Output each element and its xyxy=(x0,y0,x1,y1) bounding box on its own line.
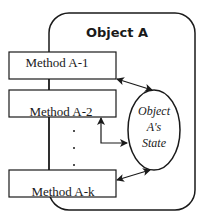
state-label-line2: A's xyxy=(146,120,162,134)
arrow-a2-state xyxy=(101,118,127,143)
state-label-line3: State xyxy=(142,136,167,150)
method-label: Method A-k xyxy=(31,184,95,199)
method-label: Method A-1 xyxy=(25,55,88,70)
arrow-a1-state xyxy=(117,79,152,90)
ellipsis-dot xyxy=(73,164,75,166)
method-box-a1: Method A-1 xyxy=(9,52,116,79)
method-label: Method A-2 xyxy=(29,104,92,119)
object-diagram: Object A Method A-1 Method A-2 Method A-… xyxy=(0,0,210,220)
object-title: Object A xyxy=(86,25,148,40)
method-box-ak: Method A-k xyxy=(9,170,116,199)
ellipsis-dot xyxy=(73,147,75,149)
state-label-line1: Object xyxy=(138,104,171,118)
method-box-a2: Method A-2 xyxy=(9,90,116,119)
ellipsis-dot xyxy=(73,130,75,132)
arrow-ak-state xyxy=(117,170,150,180)
